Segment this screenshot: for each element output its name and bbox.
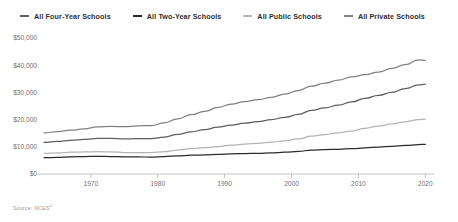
source-superscript: 2	[50, 203, 52, 208]
legend-item-four-year[interactable]: All Four-Year Schools	[20, 12, 111, 21]
chart-legend: All Four-Year Schools All Two-Year Schoo…	[20, 8, 440, 24]
chart-page: All Four-Year Schools All Two-Year Schoo…	[0, 0, 458, 222]
legend-item-two-year[interactable]: All Two-Year Schools	[133, 12, 222, 21]
legend-swatch-two-year	[133, 15, 142, 17]
y-tick-label: $50,000	[13, 34, 37, 41]
x-tick-label: 1980	[150, 180, 165, 187]
legend-item-private[interactable]: All Private Schools	[344, 12, 425, 21]
y-tick-label: $20,000	[13, 116, 37, 123]
x-tick-label: 1990	[217, 180, 232, 187]
legend-item-public[interactable]: All Public Schools	[243, 12, 322, 21]
y-tick-label: $40,000	[13, 62, 37, 69]
y-tick-label: $30,000	[13, 89, 37, 96]
legend-label-two-year: All Two-Year Schools	[147, 12, 222, 21]
line-chart-svg: $0$10,000$20,000$30,000$40,000$50,000 19…	[0, 26, 458, 196]
legend-label-private: All Private Schools	[358, 12, 425, 21]
y-tick-label: $10,000	[13, 143, 37, 150]
legend-swatch-four-year	[20, 15, 29, 17]
x-tick-label: 2000	[284, 180, 299, 187]
legend-label-four-year: All Four-Year Schools	[34, 12, 111, 21]
legend-swatch-public	[243, 15, 252, 17]
legend-label-public: All Public Schools	[257, 12, 322, 21]
chart-plot-area: $0$10,000$20,000$30,000$40,000$50,000 19…	[0, 26, 458, 196]
x-tick-label: 1970	[83, 180, 98, 187]
series-line	[44, 144, 425, 157]
source-text: Source: NCES	[13, 205, 50, 211]
x-tick-label: 2010	[351, 180, 366, 187]
y-tick-label: $0	[30, 170, 38, 177]
legend-swatch-private	[344, 15, 353, 17]
y-axis-tick-labels: $0$10,000$20,000$30,000$40,000$50,000	[13, 34, 37, 177]
source-note: Source: NCES2	[13, 203, 52, 211]
series-line	[44, 84, 425, 142]
x-axis-tick-labels: 197019801990200020102020	[83, 180, 432, 187]
x-tick-label: 2020	[418, 180, 433, 187]
x-axis-tick-marks	[91, 174, 425, 178]
data-series-group	[44, 60, 425, 158]
series-line	[44, 60, 425, 133]
